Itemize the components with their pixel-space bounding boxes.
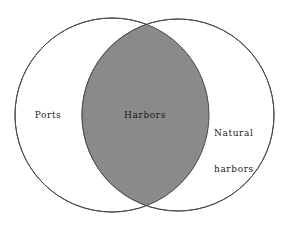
set-label-natural-harbors-line-1: Natural — [214, 127, 288, 139]
intersection-label-harbors: Harbors — [97, 109, 193, 121]
set-label-natural-harbors: Natural harbors — [196, 103, 288, 199]
set-label-natural-harbors-line-2: harbors — [214, 163, 288, 175]
venn-diagram: Ports Harbors Natural harbors — [0, 0, 288, 226]
set-label-ports: Ports — [0, 109, 96, 121]
